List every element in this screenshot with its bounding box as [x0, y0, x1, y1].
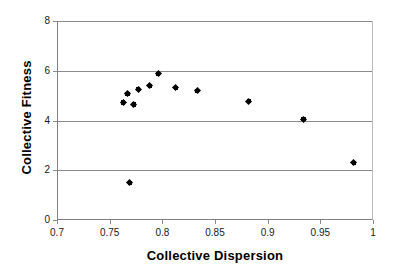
x-axis-tick	[57, 220, 58, 224]
x-axis-tick-label: 0.7	[37, 227, 77, 239]
x-axis-tick-label: 0.85	[195, 227, 235, 239]
diamond-marker-icon	[135, 86, 142, 93]
y-axis-tick	[53, 71, 57, 72]
x-axis-tick-label: 0.95	[300, 227, 340, 239]
marker-core	[125, 92, 129, 96]
diamond-marker-icon	[146, 82, 153, 89]
y-axis-tick	[53, 21, 57, 22]
diamond-marker-icon	[350, 159, 357, 166]
gridline-y-8	[58, 21, 372, 22]
marker-core	[121, 100, 125, 104]
x-axis-title: Collective Dispersion	[57, 248, 373, 263]
marker-core	[156, 72, 160, 76]
x-axis-tick	[320, 220, 321, 224]
x-axis-tick	[373, 220, 374, 224]
data-point	[146, 82, 153, 89]
data-point	[124, 90, 131, 97]
plot-area	[57, 21, 373, 220]
diamond-marker-icon	[193, 87, 200, 94]
x-axis-tick-label: 0.75	[90, 227, 130, 239]
y-axis-tick-label: 6	[28, 66, 50, 76]
y-axis-tick-label: 2	[28, 165, 50, 175]
x-axis-tick-label: 1	[353, 227, 393, 239]
diamond-marker-icon	[130, 101, 137, 108]
y-axis-tick-label: 4	[28, 116, 50, 126]
y-axis-tick	[53, 121, 57, 122]
marker-core	[195, 89, 199, 93]
marker-core	[136, 87, 140, 91]
x-axis-tick	[268, 220, 269, 224]
diamond-marker-icon	[245, 98, 252, 105]
x-axis-tick-label: 0.8	[142, 227, 182, 239]
y-axis-tick-label: 0	[28, 215, 50, 225]
gridline-y-2	[58, 170, 372, 171]
x-axis-tick-label: 0.9	[248, 227, 288, 239]
diamond-marker-icon	[126, 179, 133, 186]
data-point	[245, 98, 252, 105]
diamond-marker-icon	[172, 84, 179, 91]
diamond-marker-icon	[124, 90, 131, 97]
data-point	[120, 99, 127, 106]
data-point	[126, 179, 133, 186]
marker-core	[352, 161, 356, 165]
marker-core	[148, 84, 152, 88]
scatter-chart: Collective Fitness Collective Dispersion…	[0, 0, 394, 280]
marker-core	[128, 181, 132, 185]
marker-core	[174, 86, 178, 90]
data-point	[172, 84, 179, 91]
x-axis-tick	[110, 220, 111, 224]
gridline-y-6	[58, 71, 372, 72]
data-point	[194, 87, 201, 94]
y-axis-tick-label: 8	[28, 16, 50, 26]
data-point	[130, 101, 137, 108]
x-axis-tick	[215, 220, 216, 224]
marker-core	[132, 102, 136, 106]
gridline-y-4	[58, 121, 372, 122]
data-point	[135, 86, 142, 93]
data-point	[350, 159, 357, 166]
x-axis-tick	[162, 220, 163, 224]
diamond-marker-icon	[120, 99, 127, 106]
marker-core	[247, 99, 251, 103]
y-axis-tick	[53, 170, 57, 171]
